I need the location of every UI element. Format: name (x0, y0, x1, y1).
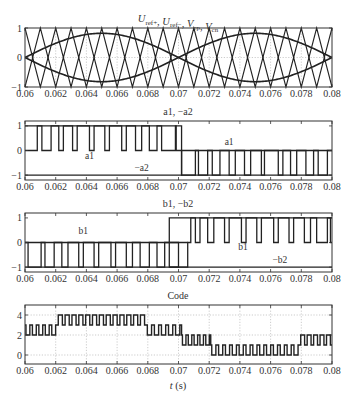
x-tick-label: 0.06 (16, 181, 34, 192)
y-tick-label: 1 (17, 212, 22, 223)
y-tick-label: 0 (17, 350, 22, 361)
chart-figure: Uref+, Uref−, Vcp, Vcn 10−10.060.0620.06… (0, 0, 356, 403)
y-tick-label: −1 (11, 262, 22, 273)
x-tick-label: 0.064 (75, 88, 98, 99)
plot-area: b1b1−b2 (25, 218, 332, 267)
x-tick-label: 0.062 (44, 181, 67, 192)
series-annotation: −a2 (134, 163, 149, 173)
y-tick-label: −1 (11, 170, 22, 181)
x-tick-label: 0.08 (323, 88, 341, 99)
panel-title: Code (167, 290, 189, 301)
series-annotation: b1 (238, 242, 248, 252)
x-tick-label: 0.074 (229, 365, 252, 376)
panel-title: b1, −b2 (163, 198, 194, 209)
series-annotation: a1 (85, 151, 94, 161)
x-tick-label: 0.076 (259, 365, 282, 376)
axes: 10−10.060.0620.0640.0660.0680.070.0720.0… (11, 23, 340, 100)
x-tick-label: 0.072 (198, 365, 221, 376)
x-tick-label: 0.06 (16, 88, 34, 99)
y-tick-label: 4 (17, 310, 22, 321)
axes: 10−10.060.0620.0640.0660.0680.070.0720.0… (11, 212, 340, 284)
x-tick-label: 0.08 (323, 273, 341, 284)
x-tick-label: 0.066 (106, 88, 129, 99)
series-annotation: b1 (79, 226, 89, 236)
x-tick-label: 0.064 (75, 181, 98, 192)
x-axis-label: t (s) (170, 380, 187, 392)
series-annotation: −b2 (272, 255, 287, 265)
x-tick-label: 0.078 (290, 181, 313, 192)
x-tick-label: 0.076 (259, 88, 282, 99)
y-tick-label: 0 (17, 145, 22, 156)
y-tick-label: 2 (17, 330, 22, 341)
x-tick-label: 0.074 (229, 181, 252, 192)
x-tick-label: 0.074 (229, 88, 252, 99)
x-tick-label: 0.068 (137, 181, 160, 192)
panel-references-carriers: Uref+, Uref−, Vcp, Vcn 10−10.060.0620.06… (11, 13, 340, 99)
x-tick-label: 0.068 (137, 365, 160, 376)
x-tick-label: 0.076 (259, 273, 282, 284)
x-tick-label: 0.078 (290, 88, 313, 99)
series-annotation: a1 (225, 137, 234, 147)
x-tick-label: 0.06 (16, 365, 34, 376)
panel-code: Code 4200.060.0620.0640.0660.0680.070.07… (16, 290, 341, 376)
x-tick-label: 0.06 (16, 273, 34, 284)
panel-a1-a2: a1, −a2 a1−a2a1 10−10.060.0620.0640.0660… (11, 106, 340, 192)
x-tick-label: 0.072 (198, 88, 221, 99)
x-tick-label: 0.068 (137, 273, 160, 284)
panel-title: a1, −a2 (163, 106, 193, 117)
x-tick-label: 0.08 (323, 181, 341, 192)
x-tick-label: 0.066 (106, 181, 129, 192)
x-tick-label: 0.07 (170, 88, 188, 99)
x-tick-label: 0.072 (198, 181, 221, 192)
plot-area (25, 28, 332, 87)
y-tick-label: 1 (17, 23, 22, 34)
x-tick-label: 0.08 (323, 365, 341, 376)
x-tick-label: 0.068 (137, 88, 160, 99)
x-tick-label: 0.07 (170, 181, 188, 192)
x-tick-label: 0.074 (229, 273, 252, 284)
y-tick-label: 0 (17, 237, 22, 248)
figure: Uref+, Uref−, Vcp, Vcn 10−10.060.0620.06… (0, 0, 356, 403)
x-tick-label: 0.062 (44, 88, 67, 99)
panel-b1-b2: b1, −b2 b1b1−b2 10−10.060.0620.0640.0660… (11, 198, 340, 284)
x-tick-label: 0.062 (44, 273, 67, 284)
x-tick-label: 0.062 (44, 365, 67, 376)
x-tick-label: 0.078 (290, 365, 313, 376)
plot-area (25, 305, 332, 364)
x-tick-label: 0.078 (290, 273, 313, 284)
x-tick-label: 0.064 (75, 365, 98, 376)
y-tick-label: 0 (17, 52, 22, 63)
y-tick-label: 1 (17, 120, 22, 131)
plot-area: a1−a2a1 (25, 126, 332, 175)
x-tick-label: 0.07 (170, 273, 188, 284)
x-tick-label: 0.066 (106, 273, 129, 284)
x-tick-label: 0.072 (198, 273, 221, 284)
x-tick-label: 0.07 (170, 365, 188, 376)
x-tick-label: 0.076 (259, 181, 282, 192)
x-tick-label: 0.066 (106, 365, 129, 376)
x-tick-label: 0.064 (75, 273, 98, 284)
